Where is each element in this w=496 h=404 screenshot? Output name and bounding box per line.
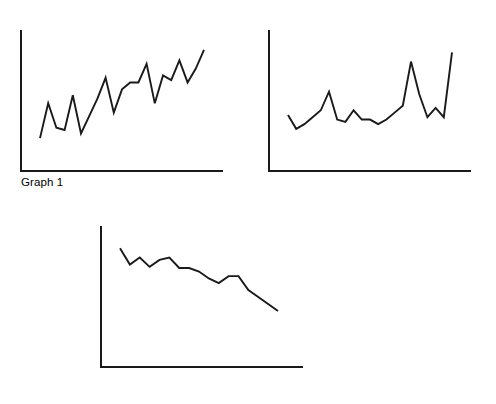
series-line-graph-3 [120,248,278,311]
chart-panel-graph-1: Graph 1 [0,0,248,202]
chart-svg-graph-2 [248,0,496,202]
series-line-graph-1 [40,50,204,138]
chart-title-graph-1: Graph 1 [21,176,63,189]
axis-graph-1 [21,31,222,171]
chart-svg-graph-3 [80,196,328,398]
axis-graph-2 [269,31,470,171]
graphs-figure: Graph 1 Graph 2 Graph 3 [0,0,496,404]
chart-panel-graph-3: Graph 3 [80,196,328,398]
chart-svg-graph-1 [0,0,248,202]
series-line-graph-2 [288,52,452,129]
chart-panel-graph-2: Graph 2 [248,0,496,202]
axis-graph-3 [101,227,302,367]
